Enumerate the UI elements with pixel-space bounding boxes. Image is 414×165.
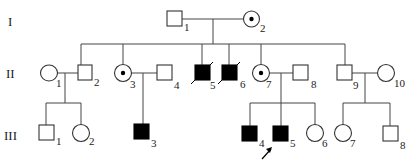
individual-I-1: 1 bbox=[167, 11, 190, 33]
individual-III-4: 4 bbox=[242, 126, 265, 149]
individual-III-8: 8 bbox=[383, 126, 406, 151]
male-symbol bbox=[167, 11, 182, 26]
individual-number: 3 bbox=[151, 137, 157, 149]
female-symbol bbox=[335, 125, 352, 142]
female-symbol bbox=[378, 65, 395, 82]
individual-number: 3 bbox=[130, 78, 136, 90]
individual-number: 1 bbox=[56, 77, 62, 89]
individual-III-6: 6 bbox=[307, 125, 329, 150]
male-symbol bbox=[39, 125, 54, 140]
individual-number: 5 bbox=[210, 79, 216, 91]
affected-male-symbol bbox=[242, 126, 257, 141]
individual-III-1: 1 bbox=[39, 125, 62, 147]
individual-number: 8 bbox=[400, 139, 406, 151]
pedigree-diagram: I II III 1 2 1 2 bbox=[0, 0, 414, 165]
male-symbol bbox=[78, 65, 92, 80]
individual-II-7: 7 bbox=[253, 65, 273, 91]
male-symbol bbox=[293, 65, 308, 80]
individual-number: 8 bbox=[311, 78, 317, 90]
individual-II-1: 1 bbox=[41, 65, 62, 89]
individual-II-4: 4 bbox=[157, 65, 180, 91]
individual-II-2: 2 bbox=[78, 65, 100, 88]
female-symbol bbox=[41, 65, 58, 81]
carrier-dot-icon bbox=[249, 17, 253, 21]
individual-III-5: 5 bbox=[262, 126, 296, 159]
individual-II-6: 6 bbox=[218, 62, 246, 90]
male-symbol bbox=[157, 65, 172, 80]
generation-label-I: I bbox=[8, 14, 12, 29]
individual-II-3: 3 bbox=[115, 65, 137, 91]
individual-number: 7 bbox=[350, 137, 356, 149]
female-symbol bbox=[307, 125, 324, 142]
individual-I-2: 2 bbox=[244, 11, 266, 34]
individual-number: 2 bbox=[260, 22, 266, 34]
individual-II-8: 8 bbox=[293, 65, 317, 90]
individual-number: 2 bbox=[94, 76, 100, 88]
individual-number: 6 bbox=[322, 137, 328, 149]
carrier-dot-icon bbox=[259, 71, 263, 75]
male-symbol bbox=[383, 126, 398, 141]
individual-III-3: 3 bbox=[134, 124, 157, 149]
individual-number: 9 bbox=[353, 79, 359, 91]
male-symbol bbox=[337, 65, 352, 80]
individual-number: 1 bbox=[184, 21, 190, 33]
individual-II-10: 10 bbox=[378, 65, 406, 90]
female-symbol bbox=[73, 125, 90, 142]
affected-male-symbol bbox=[134, 124, 149, 139]
generation-label-III: III bbox=[4, 128, 17, 143]
individual-number: 4 bbox=[174, 79, 180, 91]
individual-III-7: 7 bbox=[335, 125, 357, 150]
individual-number: 1 bbox=[56, 135, 62, 147]
carrier-dot-icon bbox=[121, 71, 125, 75]
individual-number: 6 bbox=[240, 78, 246, 90]
individual-number: 7 bbox=[266, 78, 272, 90]
individual-number: 10 bbox=[394, 77, 406, 89]
generation-label-II: II bbox=[6, 66, 15, 81]
individual-number: 5 bbox=[290, 137, 296, 149]
individual-number: 4 bbox=[259, 137, 265, 149]
individual-II-9: 9 bbox=[337, 65, 359, 91]
individual-II-5: 5 bbox=[191, 62, 216, 91]
affected-male-symbol bbox=[273, 126, 288, 141]
individual-III-2: 2 bbox=[73, 125, 95, 148]
individual-number: 2 bbox=[89, 135, 95, 147]
